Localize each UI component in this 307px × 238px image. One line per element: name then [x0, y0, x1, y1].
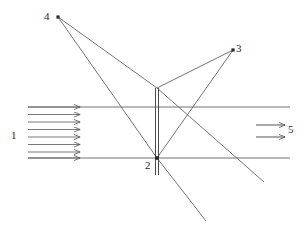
ray-3-to-point-2: [157, 50, 233, 158]
label-1: 1: [11, 130, 17, 141]
ray-3-to-mirror-top: [157, 50, 233, 88]
ray-diagram-figure: 1 2 3 4 5: [0, 0, 307, 238]
incoming-arrow-group: [28, 107, 80, 158]
label-3: 3: [236, 43, 242, 54]
ray-group: [58, 17, 264, 221]
point-2-dot: [155, 156, 159, 160]
point-4-dot: [56, 15, 59, 18]
ray-point-2-to-bottom-right: [157, 158, 206, 221]
label-4: 4: [44, 11, 50, 22]
point-markers: [56, 15, 234, 159]
outgoing-arrow-group: [256, 125, 285, 137]
point-3-dot: [231, 48, 234, 51]
diagram-canvas: [0, 0, 307, 238]
mirror: [156, 88, 159, 175]
label-2: 2: [145, 160, 151, 171]
label-5: 5: [288, 124, 294, 135]
ray-4-to-mirror-top: [58, 17, 157, 88]
